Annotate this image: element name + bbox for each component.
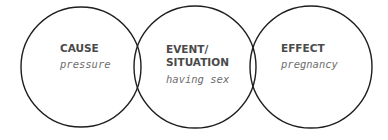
- effect-example: pregnancy: [281, 58, 338, 71]
- cause-example: pressure: [60, 58, 111, 71]
- event-example: having sex: [166, 73, 229, 86]
- effect-heading: EFFECT: [281, 42, 338, 55]
- event-heading-line1: EVENT/: [166, 43, 229, 56]
- cause-heading: CAUSE: [60, 42, 111, 55]
- effect-label-group: EFFECT pregnancy: [281, 42, 338, 71]
- event-heading-line2: SITUATION: [166, 56, 229, 69]
- event-label-group: EVENT/ SITUATION having sex: [166, 43, 229, 86]
- cause-event-effect-diagram: CAUSE pressure EVENT/ SITUATION having s…: [0, 0, 388, 140]
- cause-label-group: CAUSE pressure: [60, 42, 111, 71]
